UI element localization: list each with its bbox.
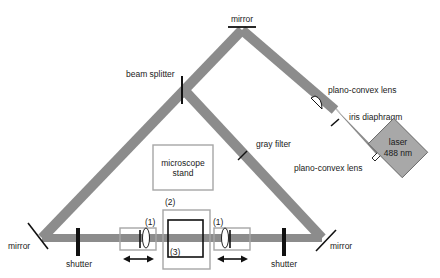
beam-top-to-lens [242, 30, 335, 110]
laser-label-line2: 488 nm [384, 148, 412, 158]
mirror-right-label: mirror [330, 241, 352, 251]
laser-label-line1: laser [389, 137, 408, 147]
plano-convex-lens-upper-label: plano-convex lens [328, 85, 397, 95]
shutter-right-label: shutter [271, 259, 297, 269]
shutter-right-icon [282, 228, 286, 256]
microscope-stand-label-line2: stand [173, 168, 194, 178]
marker-3: (3) [170, 247, 181, 257]
shutter-left-icon [76, 228, 80, 256]
marker-1-right: (1) [213, 217, 224, 227]
beam-left-diagonal [42, 30, 242, 238]
gray-filter-label: gray filter [256, 139, 291, 149]
assembly-1-left-lens-icon [143, 228, 150, 248]
iris-diaphragm-icon [331, 119, 339, 126]
beam-splitter-label: beam splitter [126, 69, 175, 79]
beam-paths [42, 30, 335, 238]
optical-setup-diagram: mirror beam splitter plano-convex lens i… [0, 0, 440, 278]
assembly-1-right-lens-icon [222, 228, 229, 248]
plano-convex-lens-lower-label: plano-convex lens [294, 163, 363, 173]
microscope-stand-label-line1: microscope [161, 158, 205, 168]
mirror-top-label: mirror [231, 14, 253, 24]
arrow-double-left-icon [123, 256, 154, 263]
marker-1-left: (1) [145, 217, 156, 227]
marker-2: (2) [165, 197, 176, 207]
mirror-left-label: mirror [8, 241, 30, 251]
arrow-double-right-icon [217, 256, 248, 263]
shutter-left-label: shutter [66, 259, 92, 269]
